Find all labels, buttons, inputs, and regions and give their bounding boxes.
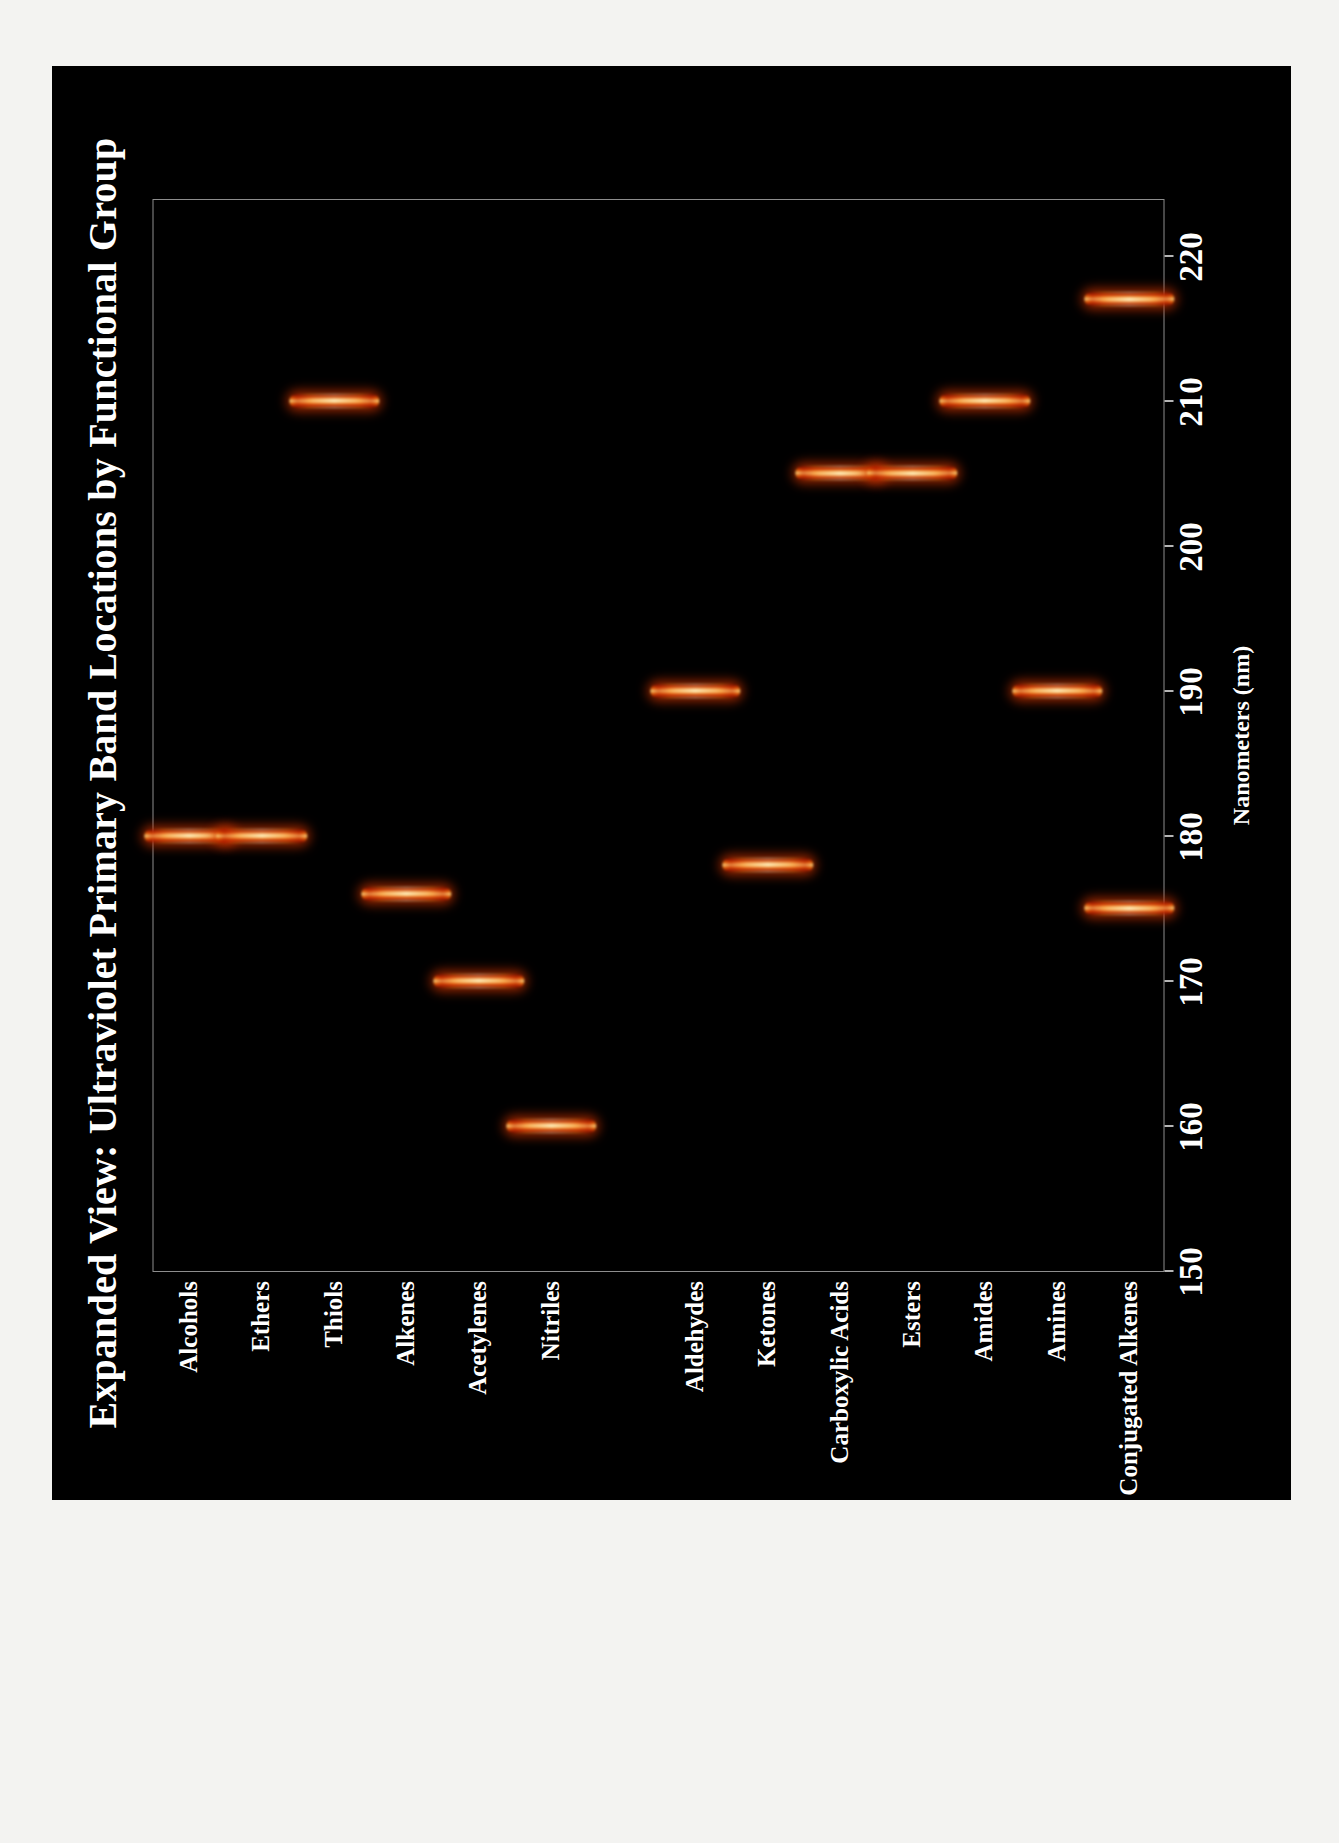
y-category-label: Aldehydes (680, 1281, 708, 1392)
y-category-label: Thiols (319, 1281, 347, 1348)
band-core (657, 689, 733, 693)
data-band (722, 858, 812, 873)
data-band (650, 684, 740, 699)
data-band (1011, 684, 1101, 699)
chart-canvas: Expanded View: Ultraviolet Primary Band … (52, 66, 1291, 1500)
band-core (223, 834, 299, 838)
data-band (1084, 292, 1174, 307)
y-category-label: Ketones (752, 1281, 780, 1367)
y-category-label: Alcohols (174, 1281, 202, 1373)
data-band (289, 394, 379, 409)
band-core (296, 399, 372, 403)
band-core (1091, 907, 1167, 911)
x-tick-label: 200 (1172, 522, 1209, 572)
data-band (867, 466, 957, 481)
x-tick-label: 180 (1172, 812, 1209, 862)
y-category-label: Acetylenes (463, 1281, 491, 1395)
x-tick-label: 150 (1172, 1247, 1209, 1297)
band-core (874, 472, 950, 476)
y-category-label: Ethers (246, 1281, 274, 1352)
x-tick-label: 160 (1172, 1102, 1209, 1152)
x-tick-label: 170 (1172, 957, 1209, 1007)
band-core (1019, 689, 1095, 693)
y-category-label: Amides (969, 1281, 997, 1362)
x-axis-title: Nanometers (nm) (1227, 199, 1254, 1272)
y-category-label: Esters (897, 1281, 925, 1348)
data-band (361, 887, 451, 902)
y-category-label: Carboxylic Acids (825, 1281, 853, 1464)
figure-page: Expanded View: Ultraviolet Primary Band … (0, 0, 1339, 1843)
band-core (368, 892, 444, 896)
band-core (802, 472, 878, 476)
band-core (946, 399, 1022, 403)
data-band (216, 829, 306, 844)
data-band (505, 1119, 595, 1134)
chart-figure: Expanded View: Ultraviolet Primary Band … (52, 66, 1291, 1500)
y-category-label: Nitriles (536, 1281, 564, 1360)
plot-area (152, 199, 1164, 1272)
data-band (939, 394, 1029, 409)
data-band (1084, 901, 1174, 916)
y-category-label: Amines (1042, 1281, 1070, 1362)
band-core (151, 834, 227, 838)
y-category-label: Alkenes (391, 1281, 419, 1366)
band-core (513, 1124, 589, 1128)
x-tick-label: 210 (1172, 377, 1209, 427)
band-core (729, 863, 805, 867)
x-tick-label: 220 (1172, 232, 1209, 282)
data-band (433, 974, 523, 989)
chart-title: Expanded View: Ultraviolet Primary Band … (78, 66, 125, 1500)
y-category-label: Conjugated Alkenes (1114, 1281, 1142, 1496)
x-tick-label: 190 (1172, 667, 1209, 717)
band-core (440, 979, 516, 983)
band-core (1091, 298, 1167, 302)
